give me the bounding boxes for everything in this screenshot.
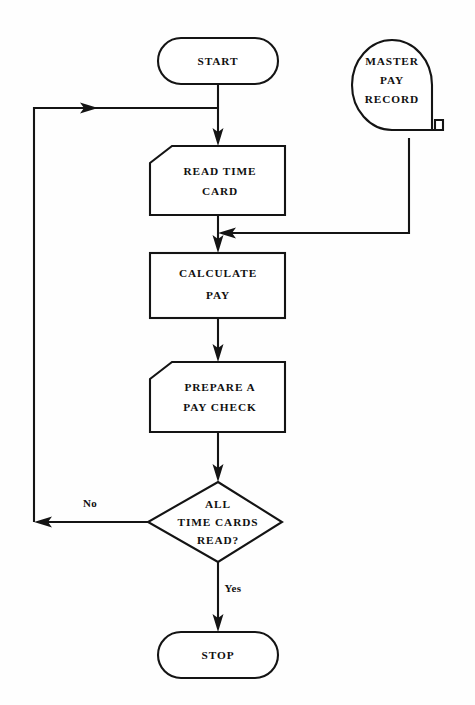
node-start[interactable]: START [158, 38, 278, 84]
node-stop[interactable]: STOP [158, 632, 278, 678]
node-read-time-card-label-2: CARD [202, 185, 238, 197]
node-calculate-pay-label-2: PAY [206, 289, 230, 301]
flowchart-svg: START MASTER PAY RECORD READ TIME CARD C… [0, 0, 475, 705]
node-all-time-cards-read-label-3: READ? [197, 534, 239, 546]
node-master-pay-record[interactable]: MASTER PAY RECORD [352, 40, 443, 130]
node-master-pay-record-label-1: MASTER [365, 55, 419, 67]
connector-prepare-to-decision [213, 432, 224, 482]
node-calculate-pay-label-1: CALCULATE [179, 267, 257, 279]
node-all-time-cards-read[interactable]: ALL TIME CARDS READ? [148, 482, 282, 562]
node-prepare-pay-check-label-1: PREPARE A [185, 381, 256, 393]
flowchart-canvas: START MASTER PAY RECORD READ TIME CARD C… [0, 0, 475, 705]
connector-start-to-read-time-card [213, 84, 224, 146]
connector-yes-branch [213, 562, 224, 632]
node-prepare-pay-check-label-2: PAY CHECK [183, 401, 256, 413]
node-start-label: START [198, 55, 239, 67]
node-all-time-cards-read-label-1: ALL [205, 498, 231, 510]
edge-label-yes: Yes [225, 582, 242, 594]
node-prepare-pay-check[interactable]: PREPARE A PAY CHECK [150, 362, 285, 432]
node-all-time-cards-read-label-2: TIME CARDS [178, 516, 259, 528]
node-stop-label: STOP [202, 649, 235, 661]
node-read-time-card[interactable]: READ TIME CARD [150, 146, 285, 215]
node-master-pay-record-label-2: PAY [380, 74, 404, 86]
connector-no-branch [34, 517, 148, 528]
node-master-pay-record-label-3: RECORD [365, 93, 419, 105]
connector-calculate-to-prepare [213, 318, 224, 362]
edge-label-no: No [83, 497, 97, 509]
node-calculate-pay[interactable]: CALCULATE PAY [150, 253, 285, 318]
node-read-time-card-label-1: READ TIME [184, 165, 257, 177]
